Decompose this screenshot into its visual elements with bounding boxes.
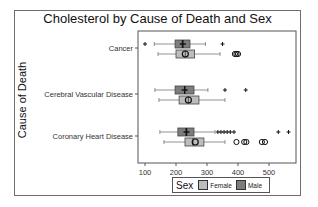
plot-border [138,31,296,163]
legend-label-female: Female [210,182,232,189]
legend-swatch-female [198,180,208,190]
x-tick-label: 400 [232,168,245,177]
x-tick-label: 200 [170,168,183,177]
category-label: Cerebral Vascular Disease [44,90,133,99]
x-tick-label: 100 [139,168,152,177]
legend-swatch-male [236,180,246,190]
outlier [262,139,267,144]
plot-area: 100200300400500CancerCerebral Vascular D… [0,0,318,207]
x-tick-label: 500 [263,168,276,177]
outlier [234,139,239,144]
x-tick-label: 300 [201,168,214,177]
legend: Sex Female Male [172,177,270,193]
category-label: Cancer [109,44,134,53]
legend-title: Sex [176,180,193,191]
category-label: Coronary Heart Disease [53,132,133,141]
legend-label-male: Male [248,182,262,189]
